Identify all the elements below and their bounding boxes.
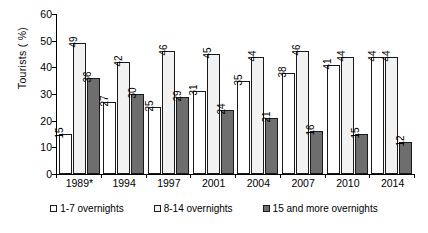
bar-slot: 36 xyxy=(87,14,100,174)
y-axis-tick-label: 30 xyxy=(40,89,52,100)
bar[interactable]: 25 xyxy=(148,107,161,174)
bar[interactable]: 46 xyxy=(296,51,309,174)
x-axis-tick-label: 2007 xyxy=(281,178,326,189)
bar-group: 154936 xyxy=(57,14,102,174)
bar-value-label: 42 xyxy=(114,55,124,66)
bar-value-label: 44 xyxy=(368,50,378,61)
bar-group: 354421 xyxy=(236,14,281,174)
y-axis-tick-label: 50 xyxy=(40,35,52,46)
bar[interactable]: 24 xyxy=(221,110,234,174)
bar-value-label: 36 xyxy=(83,71,93,82)
bar-slot: 30 xyxy=(131,14,144,174)
y-axis-tick-label: 10 xyxy=(40,142,52,153)
bar[interactable]: 31 xyxy=(193,91,206,174)
bar[interactable]: 49 xyxy=(73,43,86,174)
bar-value-label: 49 xyxy=(69,37,79,48)
bar[interactable]: 16 xyxy=(310,131,323,174)
bar-slot: 15 xyxy=(355,14,368,174)
bar[interactable]: 27 xyxy=(103,102,116,174)
bar-slot: 44 xyxy=(385,14,398,174)
bar[interactable]: 29 xyxy=(176,97,189,174)
bar-slot: 44 xyxy=(251,14,264,174)
x-axis-tick-label: 1994 xyxy=(102,178,147,189)
y-axis-tick-mark xyxy=(52,121,56,122)
legend-item[interactable]: 8-14 overnights xyxy=(154,203,233,214)
legend-swatch-icon xyxy=(154,205,161,212)
bar-slot: 27 xyxy=(103,14,116,174)
x-axis-tick-label: 2004 xyxy=(236,178,281,189)
bar-value-label: 25 xyxy=(145,101,155,112)
bar[interactable]: 35 xyxy=(237,81,250,174)
bar[interactable]: 42 xyxy=(117,62,130,174)
bar-group: 254629 xyxy=(146,14,191,174)
bar-slot: 45 xyxy=(207,14,220,174)
legend-swatch-icon xyxy=(50,205,57,212)
bar-value-label: 46 xyxy=(159,45,169,56)
bar-slot: 49 xyxy=(73,14,86,174)
legend-item[interactable]: 15 and more overnights xyxy=(263,203,378,214)
y-axis-title: Tourists ( %) xyxy=(16,0,28,118)
bar[interactable]: 41 xyxy=(327,65,340,174)
bar-slot: 46 xyxy=(296,14,309,174)
bar-slot: 35 xyxy=(237,14,250,174)
y-axis-tick-mark xyxy=(52,67,56,68)
bar-slot: 24 xyxy=(221,14,234,174)
chart-legend: 1-7 overnights8-14 overnights15 and more… xyxy=(0,203,428,214)
x-axis-tick-label: 1989* xyxy=(57,178,102,189)
bar-slot: 25 xyxy=(148,14,161,174)
bar-value-label: 29 xyxy=(173,90,183,101)
bar-value-label: 21 xyxy=(262,111,272,122)
bar-slot: 44 xyxy=(341,14,354,174)
bar-group: 444412 xyxy=(369,14,414,174)
bar-value-label: 44 xyxy=(337,50,347,61)
y-axis-tick-mark xyxy=(52,41,56,42)
x-axis-tick-label: 2010 xyxy=(326,178,371,189)
bar[interactable]: 44 xyxy=(341,57,354,174)
bar-value-label: 27 xyxy=(100,95,110,106)
x-axis-tick-label: 1997 xyxy=(147,178,192,189)
bar[interactable]: 46 xyxy=(162,51,175,174)
bar-value-label: 44 xyxy=(382,50,392,61)
bar[interactable]: 21 xyxy=(265,118,278,174)
bar-slot: 16 xyxy=(310,14,323,174)
bar[interactable]: 44 xyxy=(385,57,398,174)
bar-group: 274230 xyxy=(102,14,147,174)
bar[interactable]: 44 xyxy=(371,57,384,174)
y-axis-tick-mark xyxy=(52,94,56,95)
legend-label: 8-14 overnights xyxy=(164,203,233,214)
bar[interactable]: 15 xyxy=(355,134,368,174)
bar-group: 384616 xyxy=(280,14,325,174)
bar[interactable]: 38 xyxy=(282,73,295,174)
y-axis-tick-label: 40 xyxy=(40,62,52,73)
plot-area: 0102030405060 15493627423025462931452435… xyxy=(56,14,414,174)
bar-slot: 44 xyxy=(371,14,384,174)
bar-slot: 12 xyxy=(399,14,412,174)
bar-value-label: 16 xyxy=(306,125,316,136)
legend-label: 15 and more overnights xyxy=(273,203,378,214)
bar[interactable]: 36 xyxy=(87,78,100,174)
bar-value-label: 30 xyxy=(128,87,138,98)
bar-groups: 1549362742302546293145243544213846164144… xyxy=(57,14,414,174)
bar-value-label: 35 xyxy=(234,74,244,85)
bar-slot: 31 xyxy=(193,14,206,174)
bar[interactable]: 12 xyxy=(399,142,412,174)
bar[interactable]: 15 xyxy=(59,134,72,174)
y-axis-tick-label: 60 xyxy=(40,9,52,20)
y-axis-tick-mark xyxy=(52,14,56,15)
bar-value-label: 15 xyxy=(351,127,361,138)
bar-slot: 41 xyxy=(327,14,340,174)
bar-slot: 38 xyxy=(282,14,295,174)
bar-value-label: 46 xyxy=(292,45,302,56)
legend-item[interactable]: 1-7 overnights xyxy=(50,203,123,214)
bar-chart: Tourists ( %) 0102030405060 154936274230… xyxy=(0,0,428,233)
x-axis-tick-label: 2014 xyxy=(370,178,415,189)
bar-group: 414415 xyxy=(325,14,370,174)
bar[interactable]: 30 xyxy=(131,94,144,174)
x-axis-tick-label: 2001 xyxy=(191,178,236,189)
y-axis-tick-mark xyxy=(52,147,56,148)
bar-value-label: 44 xyxy=(248,50,258,61)
legend-label: 1-7 overnights xyxy=(60,203,123,214)
bar-value-label: 15 xyxy=(55,127,65,138)
bar-slot: 21 xyxy=(265,14,278,174)
bar-value-label: 45 xyxy=(203,47,213,58)
